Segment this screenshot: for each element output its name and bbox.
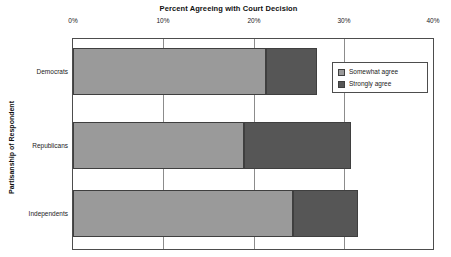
bar-chart: Percent Agreeing with Court Decision Par… — [0, 0, 451, 257]
legend-swatch-somewhat-agree-icon — [338, 69, 345, 76]
bar-segment-republicans-somewhat-agree — [73, 122, 244, 169]
bar-segment-independents-somewhat-agree — [73, 190, 293, 237]
bar-row-independents — [73, 190, 433, 237]
x-tick-label-40: 40% — [426, 17, 439, 24]
x-tick-label-20: 20% — [247, 17, 260, 24]
y-tick-label-republicans: Republicans — [32, 142, 68, 149]
x-tick-label-30: 30% — [337, 17, 350, 24]
legend-item-strongly-agree: Strongly agree — [338, 79, 422, 89]
legend-label-strongly-agree: Strongly agree — [349, 81, 391, 88]
x-tick-label-10: 10% — [156, 17, 169, 24]
y-tick-label-democrats: Democrats — [37, 68, 68, 75]
legend-item-somewhat-agree: Somewhat agree — [338, 67, 422, 77]
bar-segment-democrats-somewhat-agree — [73, 48, 266, 95]
bar-segment-democrats-strongly-agree — [266, 48, 317, 95]
bar-segment-independents-strongly-agree — [293, 190, 358, 237]
chart-legend: Somewhat agree Strongly agree — [332, 62, 428, 93]
y-tick-label-independents: Independents — [29, 210, 68, 217]
legend-swatch-strongly-agree-icon — [338, 81, 345, 88]
bar-row-republicans — [73, 122, 433, 169]
chart-title-text: Percent Agreeing with Court Decision — [160, 4, 298, 13]
y-axis-tick-labels: Democrats Republicans Independents — [0, 0, 68, 257]
legend-label-somewhat-agree: Somewhat agree — [349, 69, 398, 76]
x-tick-label-0: 0% — [68, 17, 77, 24]
bar-segment-republicans-strongly-agree — [244, 122, 351, 169]
